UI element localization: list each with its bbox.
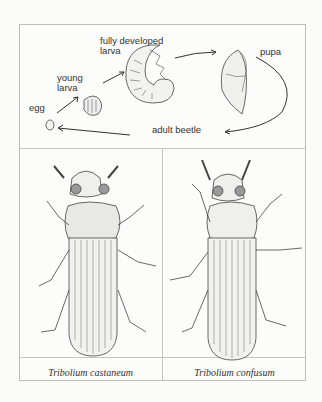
arrow-young-to-full-larva <box>103 72 124 83</box>
caption-tribolium-confusum: Tribolium confusum <box>163 367 306 378</box>
egg-illustration <box>46 120 54 130</box>
label-young-larva: young larva <box>57 73 83 93</box>
label-pupa: pupa <box>260 47 281 57</box>
label-egg: egg <box>29 103 45 113</box>
caption-tribolium-castaneum: Tribolium castaneum <box>19 367 162 378</box>
arrow-larva-to-pupa <box>175 52 216 58</box>
label-fully-developed-larva: fully developed larva <box>100 36 163 56</box>
tribolium-confusum-illustration <box>170 160 302 360</box>
lifecycle-illustration <box>0 0 322 402</box>
arrow-adult-to-egg <box>58 128 130 135</box>
pupa-illustration <box>221 50 246 114</box>
young-larva-illustration <box>84 96 102 115</box>
label-adult-beetle: adult beetle <box>152 125 201 135</box>
arrow-egg-to-young-larva <box>57 97 78 113</box>
tribolium-castaneum-illustration <box>39 166 156 356</box>
